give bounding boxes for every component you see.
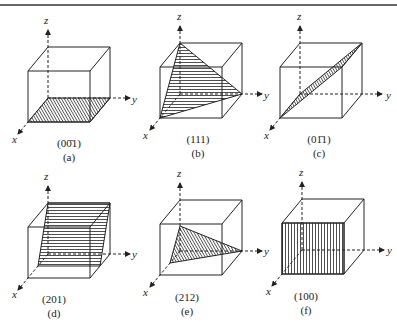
panel-e-cube [150,183,262,287]
panel-d-cube [18,186,130,290]
caption-b: (b) [168,147,228,159]
panel-b-cube [150,26,262,130]
plane-label-f: (100) [276,290,336,302]
axis-x-label: x [143,286,148,298]
caption-c: (c) [289,147,349,159]
axis-y-label: y [264,89,269,101]
axis-x-label: x [266,285,271,297]
caption-d: (d) [24,307,84,319]
panel-f-cube [272,182,384,286]
miller-planes-figure [0,0,397,326]
panel-c-cube [270,26,382,130]
axis-y-label: y [132,93,137,105]
axis-x-label: x [143,129,148,141]
axis-x-label: x [264,129,269,141]
plane-label-e: (212) [157,291,217,303]
axis-z-label: z [177,167,181,179]
plane-label-c: (01̄1) [289,133,349,145]
axis-z-label: z [44,14,48,26]
axis-z-label: z [297,10,301,22]
plane-label-b: (111) [168,133,228,145]
axis-y-label: y [264,245,269,257]
axis-y-label: y [386,89,391,101]
axis-z-label: z [177,10,181,22]
axis-z-label: z [299,166,303,178]
axis-y-label: y [132,248,137,260]
axis-z-label: z [44,170,48,182]
plane-label-a: (00̄1) [39,137,99,149]
axis-y-label: y [387,244,392,256]
axis-x-label: x [12,288,17,300]
plane-label-d: (201) [24,293,84,305]
caption-e: (e) [157,305,217,317]
caption-a: (a) [39,151,99,163]
axis-x-label: x [12,133,17,145]
caption-f: (f) [276,304,336,316]
panel-a-cube [18,30,130,134]
